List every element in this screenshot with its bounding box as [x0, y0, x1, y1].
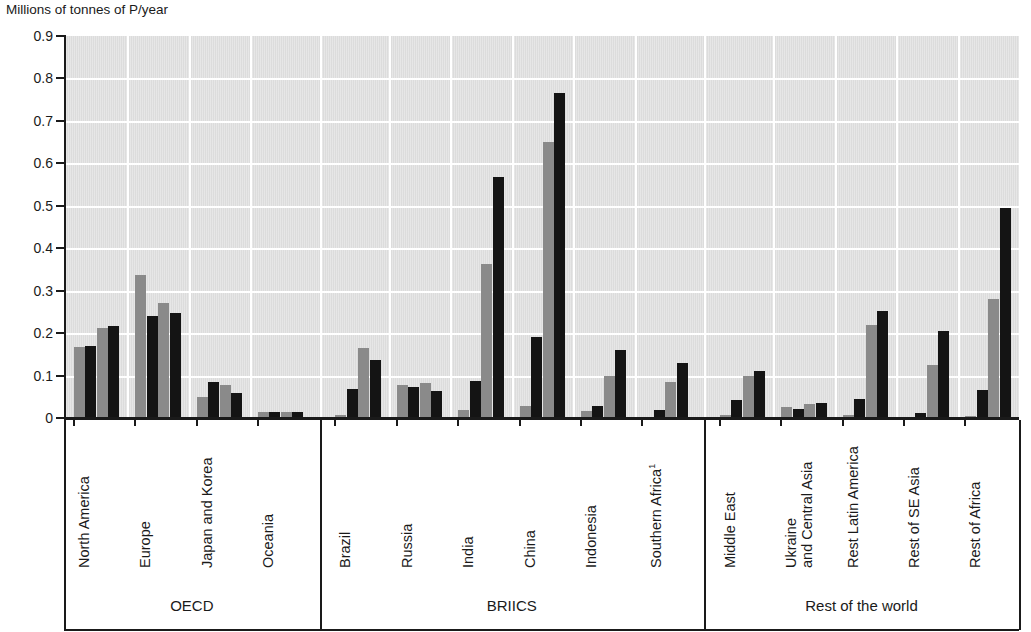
- vertical-gridline: [250, 36, 252, 418]
- x-tick-mark: [134, 420, 136, 426]
- category-label: Ukraine: [783, 518, 799, 568]
- category-label-line2: and Central Asia: [799, 462, 815, 568]
- vertical-gridline: [189, 36, 191, 418]
- bar: [493, 177, 504, 418]
- x-tick-mark: [196, 420, 198, 426]
- bar: [854, 399, 865, 418]
- x-tick-mark: [641, 420, 643, 426]
- bar: [347, 389, 358, 418]
- vertical-gridline: [896, 36, 898, 418]
- y-tick-mark: [56, 120, 65, 122]
- bar: [74, 347, 85, 418]
- gridline: [66, 121, 1019, 123]
- vertical-gridline: [835, 36, 837, 418]
- x-tick-mark: [457, 420, 459, 426]
- vertical-gridline: [389, 36, 391, 418]
- y-tick-label: 0.6: [5, 156, 53, 170]
- vertical-gridline: [958, 36, 960, 418]
- y-tick-mark: [56, 290, 65, 292]
- category-label: Rest of Africa: [967, 482, 983, 568]
- bar: [677, 363, 688, 418]
- y-axis-line: [64, 35, 66, 419]
- bottom-frame-line: [64, 629, 1019, 631]
- category-label: Europe: [137, 521, 153, 568]
- group-name-briics: BRIICS: [320, 597, 704, 614]
- bar: [208, 382, 219, 418]
- bar: [420, 383, 431, 418]
- bar: [988, 299, 999, 418]
- vertical-gridline: [635, 36, 637, 418]
- y-tick-mark: [56, 77, 65, 79]
- category-label: Middle East: [722, 492, 738, 568]
- x-tick-mark: [719, 420, 721, 426]
- bar: [97, 328, 108, 418]
- bar: [743, 376, 754, 418]
- x-tick-mark: [257, 420, 259, 426]
- category-label: Japan and Korea: [199, 458, 215, 568]
- bar: [665, 382, 676, 418]
- category-label: China: [522, 530, 538, 568]
- y-tick-label: 0.2: [5, 326, 53, 340]
- vertical-gridline: [127, 36, 129, 418]
- bar: [108, 326, 119, 418]
- y-tick-label: 0.1: [5, 369, 53, 383]
- bar: [877, 311, 888, 418]
- bar: [938, 331, 949, 418]
- bar: [397, 385, 408, 418]
- y-tick-label: 0.3: [5, 284, 53, 298]
- bar: [543, 142, 554, 418]
- category-label: Southern Africa1: [644, 464, 664, 568]
- y-tick-mark: [56, 247, 65, 249]
- x-tick-mark: [964, 420, 966, 426]
- bar: [135, 275, 146, 418]
- category-label: Indonesia: [583, 505, 599, 568]
- bar: [554, 93, 565, 418]
- y-tick-label: 0.8: [5, 71, 53, 85]
- bar: [170, 313, 181, 418]
- bar: [816, 403, 827, 418]
- vertical-gridline: [573, 36, 575, 418]
- bar: [604, 376, 615, 418]
- y-tick-mark: [56, 417, 65, 419]
- category-label: Russia: [399, 524, 415, 568]
- y-tick-mark: [56, 35, 65, 37]
- category-label: Rest Latin America: [845, 446, 861, 568]
- y-tick-mark: [56, 375, 65, 377]
- bar: [470, 381, 481, 418]
- x-tick-mark: [842, 420, 844, 426]
- bar: [615, 350, 626, 418]
- bar: [1000, 208, 1011, 418]
- bar: [158, 303, 169, 418]
- group-name-rest-of-the-world: Rest of the world: [704, 597, 1019, 614]
- bar: [531, 337, 542, 418]
- bar: [927, 365, 938, 418]
- bar: [231, 393, 242, 418]
- x-tick-mark: [580, 420, 582, 426]
- x-tick-mark: [73, 420, 75, 426]
- category-label: India: [460, 537, 476, 568]
- footnote-marker: 1: [647, 464, 657, 469]
- group-name-oecd: OECD: [64, 597, 320, 614]
- bar: [370, 360, 381, 418]
- category-label: North America: [76, 476, 92, 568]
- vertical-gridline: [320, 36, 322, 418]
- vertical-gridline: [773, 36, 775, 418]
- y-tick-mark: [56, 332, 65, 334]
- x-tick-mark: [780, 420, 782, 426]
- bar: [147, 316, 158, 418]
- x-axis-line: [64, 417, 1019, 420]
- y-tick-mark: [56, 205, 65, 207]
- bar: [85, 346, 96, 418]
- y-axis-title: Millions of tonnes of P/year: [6, 2, 168, 17]
- x-tick-mark: [903, 420, 905, 426]
- category-label: Oceania: [260, 514, 276, 568]
- y-tick-mark: [56, 162, 65, 164]
- bar: [358, 348, 369, 418]
- x-tick-mark: [396, 420, 398, 426]
- vertical-gridline: [704, 36, 706, 418]
- bar: [197, 397, 208, 418]
- y-tick-label: 0: [5, 411, 53, 425]
- bar: [431, 391, 442, 418]
- category-label: Rest of SE Asia: [906, 467, 922, 568]
- bar: [804, 404, 815, 418]
